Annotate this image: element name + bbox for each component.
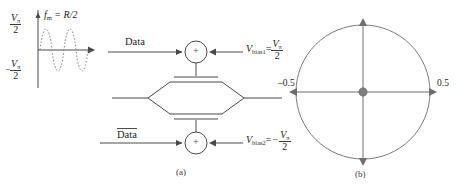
- bias2-equals: =: [266, 134, 272, 145]
- top-adder-plus-symbol: +: [193, 46, 199, 56]
- top-electrode-connection: [174, 63, 218, 77]
- y-axis-bottom-label: − Vπ 2: [5, 59, 21, 81]
- bias1-sub: bias1: [252, 48, 266, 55]
- panel-a-caption: (a): [176, 168, 186, 177]
- vpi-top-den: 2: [10, 25, 21, 36]
- constellation-center-dot: [359, 88, 367, 96]
- data-bar-text: Data: [117, 128, 137, 141]
- bias1-label: Vbias1= Vπ 2: [246, 39, 283, 61]
- f-equation: = R/2: [52, 9, 78, 20]
- waveform-axes: [36, 10, 96, 88]
- vpi-bot-sub: π: [17, 63, 20, 70]
- constellation-left-label: –0.5: [278, 79, 295, 89]
- bias1-num-sub: π: [279, 43, 282, 50]
- bias1-den: 2: [271, 51, 282, 62]
- modulation-frequency-label: fm = R/2: [44, 10, 77, 20]
- bias2-num-sub: π: [286, 134, 289, 141]
- data-bar-input-label: Data: [117, 128, 137, 141]
- bias1-num-v: V: [272, 38, 278, 49]
- panel-b-caption: (b): [355, 170, 366, 179]
- bias2-sign: −: [272, 134, 278, 145]
- bias2-label: Vbias2=− Vπ 2: [246, 130, 291, 152]
- figure-svg: [0, 0, 471, 192]
- bottom-electrode-connection: [174, 119, 218, 132]
- f-subscript: m: [47, 14, 52, 21]
- bias2-den: 2: [279, 142, 290, 153]
- bottom-bias-path: [209, 140, 243, 147]
- y-axis-top-label: Vπ 2: [10, 13, 21, 35]
- bottom-adder-plus-symbol: +: [193, 137, 199, 147]
- mach-zehnder-modulator: [112, 82, 282, 114]
- constellation-right-label: 0.5: [437, 79, 449, 89]
- data-input-label: Data: [125, 37, 145, 48]
- vpi-bot-den: 2: [10, 71, 21, 82]
- vpi-top-sub: π: [17, 17, 20, 24]
- top-bias-path: [209, 49, 243, 56]
- bias2-sub: bias2: [252, 139, 266, 146]
- figure-container: fm = R/2 Vπ 2 − Vπ 2 Data + Vbias1= Vπ 2…: [0, 0, 471, 192]
